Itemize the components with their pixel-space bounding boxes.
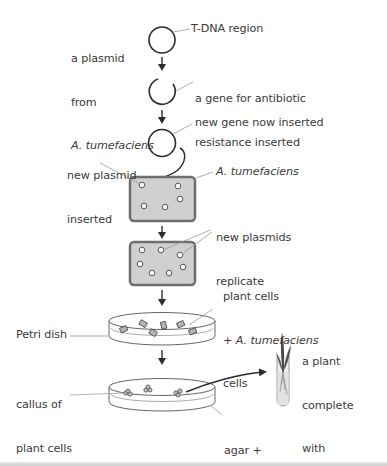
label-line: new plasmids: [216, 231, 291, 246]
label-line: inserted: [67, 213, 137, 228]
petri-dish-callus: [109, 379, 215, 412]
new-gene-leader: [173, 124, 192, 134]
a-tumefaciens-leader: [196, 172, 213, 178]
label-petri-dish: Petri dish: [16, 328, 67, 343]
agar-leader: [210, 405, 222, 415]
label-tdna-region: T-DNA region: [191, 22, 263, 37]
antibiotic-gene-leader: [176, 82, 193, 91]
label-plant-grown: a plant complete with new feature is gro…: [302, 326, 353, 466]
bacterium-cell-replicated: [130, 242, 195, 285]
label-line: a plant: [302, 355, 353, 370]
label-antibiotic-gene: a gene for antibiotic resistance inserte…: [195, 63, 306, 165]
tdna-leader: [173, 29, 190, 32]
label-line: plant cells: [223, 290, 318, 305]
label-a-tumefaciens: A. tumefaciens: [216, 165, 299, 180]
label-line: callus of: [16, 398, 72, 413]
label-line: a plasmid: [71, 52, 154, 67]
label-new-plasmid-inserted: new plasmid inserted: [67, 140, 137, 242]
label-line: a gene for antibiotic: [195, 92, 306, 107]
label-line: resistance inserted: [195, 136, 306, 151]
label-line: from: [71, 96, 154, 111]
label-line: new plasmid: [67, 169, 137, 184]
arrow-down-icon: [158, 226, 166, 239]
label-line: plant cells: [16, 442, 72, 457]
petri-dish: [109, 313, 215, 346]
arrow-down-icon: [158, 110, 166, 124]
arrow-down-icon: [158, 57, 166, 71]
arrow-down-icon: [158, 350, 166, 365]
label-agar-antibiotic: agar + antibiotic: [224, 415, 275, 466]
label-line: agar +: [224, 444, 275, 459]
bottom-edge-band: [0, 462, 387, 466]
arrow-down-icon: [158, 290, 166, 306]
label-line: complete: [302, 399, 353, 414]
label-callus: callus of plant cells with new gene: [16, 369, 72, 466]
label-text: +: [223, 334, 236, 347]
label-line: with: [302, 442, 353, 457]
label-new-gene: new gene now inserted: [195, 116, 324, 131]
